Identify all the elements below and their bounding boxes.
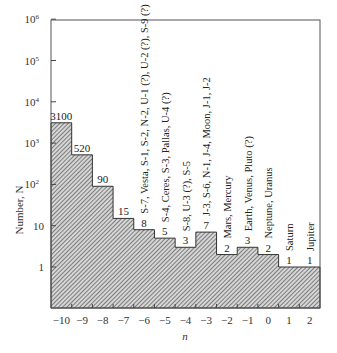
x-tick-label: −8 [97,314,109,326]
x-tick-label: 2 [307,314,313,326]
y-tick-label: 104 [25,96,40,108]
object-annotation: J-3, S-6, N-1, J-4, Moon, J-1, J-2 [201,77,212,216]
bar-value-label: 520 [74,142,91,154]
object-annotation: Neptune, Uranus [263,167,274,238]
bar-value-label: 15 [118,205,130,217]
x-tick-label: −1 [242,314,254,326]
object-annotation: S-7, Vesta, S-1, S-2, N-2, U-1 (?), U-2 … [139,4,151,214]
y-tick-label: 103 [25,137,40,149]
x-axis-title: n [182,330,188,342]
x-tick-label: −10 [53,314,71,326]
bar-value-label: 2 [266,242,272,254]
bar-value-label: 7 [203,219,209,231]
bar-value-label: 5 [162,225,168,237]
object-annotation: Earth, Venus, Pluto (?) [243,136,255,232]
histogram-figure: 106105104103102101 −10−9−8−7−6−5−4−3−2−1… [0,0,337,353]
y-tick-label: 106 [25,13,40,25]
object-annotation: S-4, Ceres, S-3, Pallas, U-4 (?) [160,92,172,222]
bar-value-label: 8 [141,217,147,229]
bar-value-label: 3 [183,234,189,246]
x-tick-label: −5 [159,314,171,326]
x-tick-label: −4 [180,314,192,326]
y-axis-title: Number, N [13,185,25,234]
x-tick-label: −7 [118,314,130,326]
y-tick-label: 1 [39,261,45,273]
object-annotation: Jupiter [305,222,316,251]
object-annotations: S-7, Vesta, S-1, S-2, N-2, U-1 (?), U-2 … [139,4,316,251]
y-tick-label: 102 [25,178,40,190]
bar-value-label: 3100 [50,110,73,122]
bar-value-label: 90 [97,173,109,185]
object-annotation: S-8, U-3 (?), S-5 [181,161,193,231]
bar-value-label: 1 [307,254,313,266]
bar-value-label: 1 [286,254,292,266]
bar-value-label: 3 [245,234,251,246]
x-tick-label: −3 [200,314,212,326]
object-annotation: Saturn [284,223,295,251]
x-tick-label: −6 [138,314,150,326]
x-tick-label: 0 [266,314,272,326]
y-tick-label: 10 [33,220,45,232]
bar-value-label: 2 [224,242,230,254]
x-tick-label: −9 [76,314,88,326]
y-tick-label: 105 [25,55,40,67]
object-annotation: Mars, Mercury [222,175,233,239]
x-tick-label: 1 [286,314,292,326]
x-tick-label: −2 [221,314,233,326]
